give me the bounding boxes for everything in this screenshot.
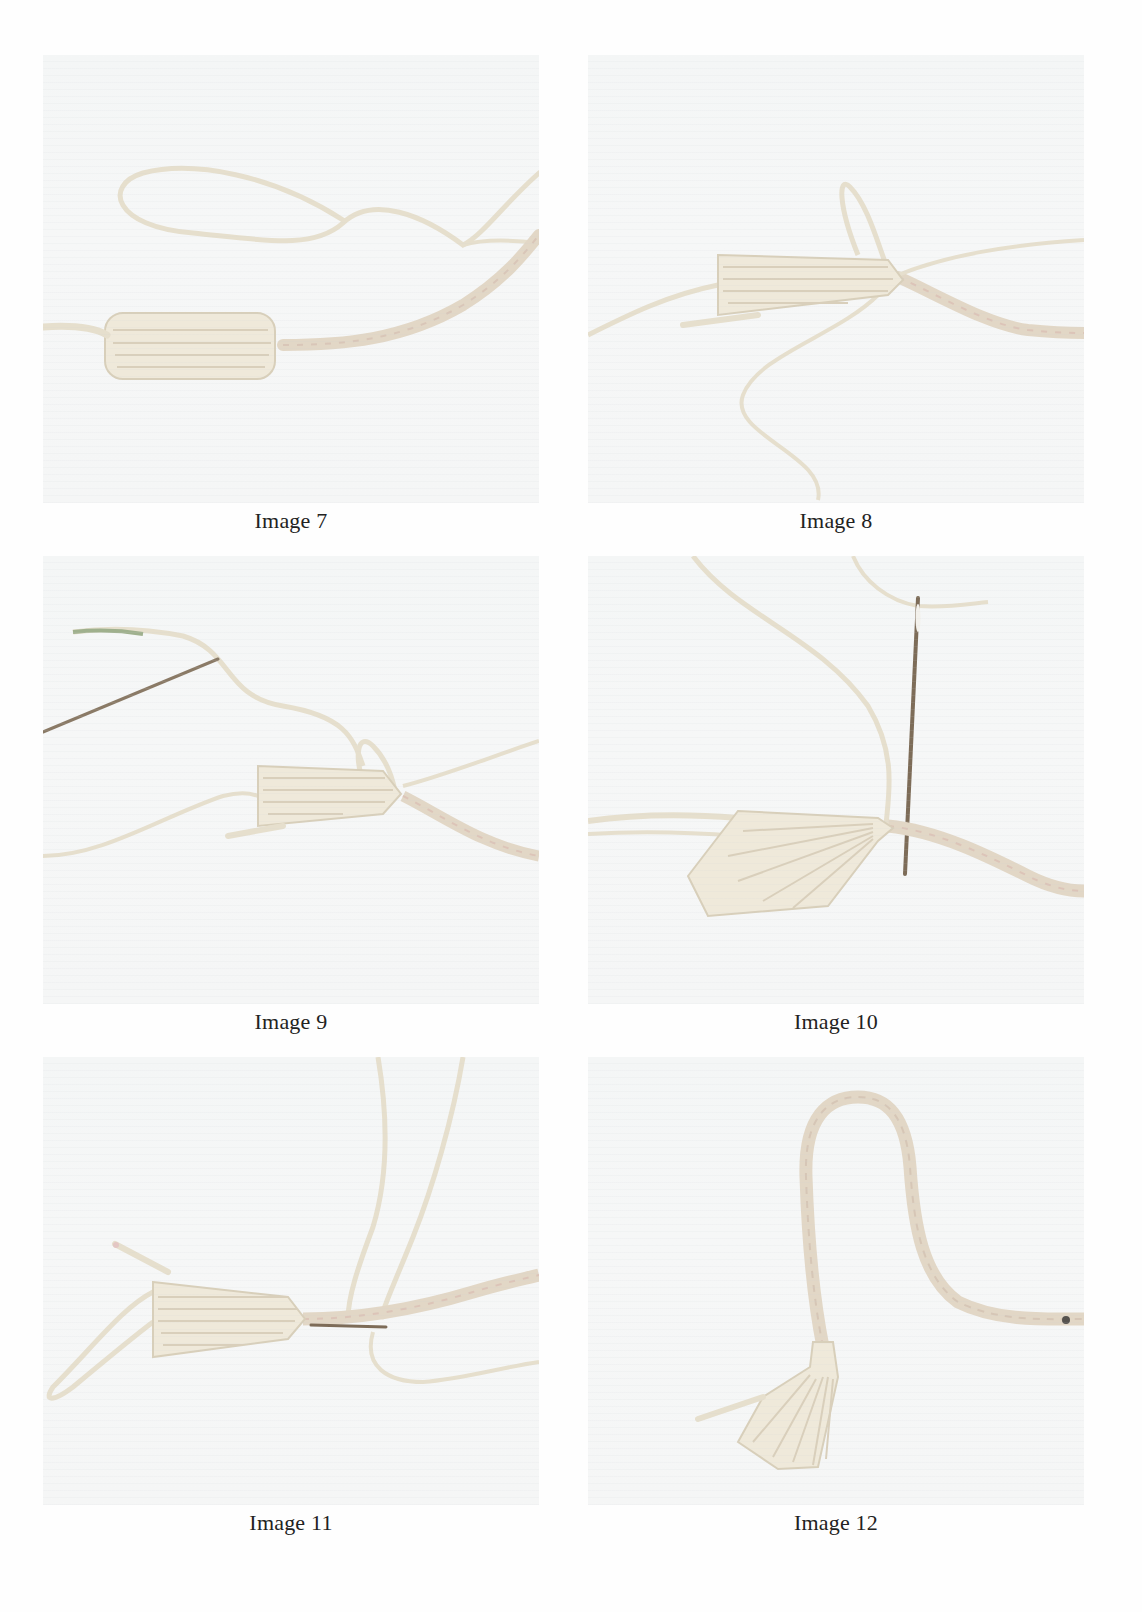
figure-image-12: Image 12 [588,1057,1084,1505]
tassel-step-10-illustration [588,556,1084,1004]
photo-image-10 [588,556,1084,1004]
caption-image-10: Image 10 [588,1009,1084,1035]
caption-image-9: Image 9 [43,1009,539,1035]
figure-image-7: Image 7 [43,55,539,503]
figure-image-9: Image 9 [43,556,539,1004]
caption-image-12: Image 12 [588,1510,1084,1536]
figure-image-8: Image 8 [588,55,1084,503]
photo-image-12 [588,1057,1084,1505]
tassel-step-8-illustration [588,55,1084,503]
tassel-step-11-illustration [43,1057,539,1505]
caption-image-11: Image 11 [43,1510,539,1536]
photo-image-7 [43,55,539,503]
figure-image-10: Image 10 [588,556,1084,1004]
photo-image-11 [43,1057,539,1505]
book-page: Image 7 Image 8 [0,0,1142,1612]
tassel-step-9-illustration [43,556,539,1004]
tassel-step-12-illustration [588,1057,1084,1505]
tassel-step-7-illustration [43,55,539,503]
photo-image-8 [588,55,1084,503]
caption-image-8: Image 8 [588,508,1084,534]
photo-image-9 [43,556,539,1004]
caption-image-7: Image 7 [43,508,539,534]
figure-image-11: Image 11 [43,1057,539,1505]
